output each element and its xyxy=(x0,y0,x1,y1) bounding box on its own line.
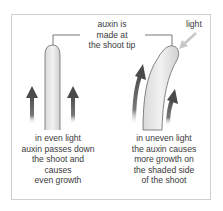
caption-line: in uneven light xyxy=(112,133,216,144)
uneven-light-caption: in uneven light the auxin causes more gr… xyxy=(112,133,216,186)
light-label: light xyxy=(186,19,216,30)
label-line: the shoot tip xyxy=(62,40,162,51)
caption-line: auxin passes down xyxy=(8,144,108,155)
caption-line: the shaded side xyxy=(112,165,216,176)
even-light-caption: in even light auxin passes down the shoo… xyxy=(8,133,108,186)
arrow-up-icon xyxy=(67,86,79,124)
caption-line: the shoot and xyxy=(8,154,108,165)
caption-line: more growth on xyxy=(112,154,216,165)
caption-line: the auxin causes xyxy=(112,144,216,155)
caption-line: in even light xyxy=(8,133,108,144)
light-arrow-icon xyxy=(179,33,196,49)
straight-shoot xyxy=(45,45,60,130)
short-curved-arrow-up-icon xyxy=(167,89,178,126)
caption-line: causes xyxy=(8,165,108,176)
bent-shoot xyxy=(143,46,179,130)
auxin-source-label: auxin is made at the shoot tip xyxy=(62,19,162,51)
caption-line: even growth xyxy=(8,175,108,186)
label-line: auxin is xyxy=(62,19,162,30)
label-line: made at xyxy=(62,30,162,41)
arrow-up-icon xyxy=(26,86,38,124)
caption-line: of the shoot xyxy=(112,175,216,186)
